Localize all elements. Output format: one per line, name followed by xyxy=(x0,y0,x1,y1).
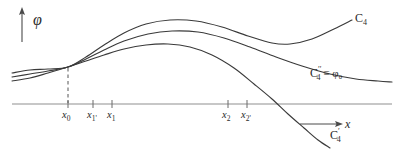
tick-label-x2prime: x2' xyxy=(241,110,251,123)
y-axis-label: φ xyxy=(33,12,42,28)
tick-label-x1: x1 xyxy=(107,110,115,123)
curve-label-c4-prime: C′4 xyxy=(330,128,341,144)
curve-label-c4-double-prime: C′′4 ≡ φ₀ xyxy=(310,66,342,82)
tick-label-x2: x2 xyxy=(222,110,230,123)
x-axis-label: x xyxy=(345,118,350,130)
tick-label-x1prime: x1' xyxy=(87,110,97,123)
figure-container: φ x x0 x1' x1 x2 x2' C4 C′′4 ≡ φ₀ C′4 xyxy=(0,0,399,152)
curve-c4 xyxy=(12,20,352,73)
curve-label-c4: C4 xyxy=(355,12,367,27)
tick-label-x0: x0 xyxy=(62,110,70,123)
